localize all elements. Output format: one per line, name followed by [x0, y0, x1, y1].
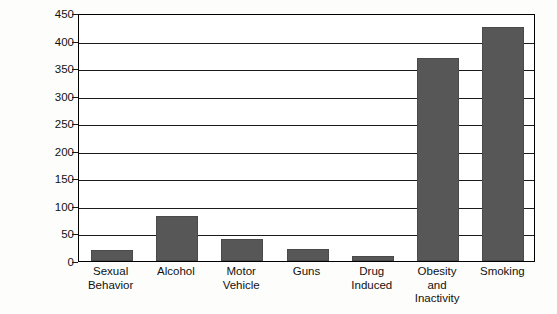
x-tick-label-line: Sexual — [78, 265, 143, 279]
bar — [417, 58, 459, 261]
y-tick-label: 150 — [34, 173, 74, 185]
x-tick-label-line: Obesity — [404, 265, 469, 279]
x-tick-label-line: Motor — [209, 265, 274, 279]
y-tick-mark — [72, 97, 78, 98]
x-tick-label-line: Vehicle — [209, 279, 274, 293]
y-tick-mark — [72, 14, 78, 15]
bar — [287, 249, 329, 261]
y-axis-tick-labels: 050100150200250300350400450 — [34, 0, 74, 314]
y-tick-label: 0 — [34, 256, 74, 268]
x-tick-label-line: Induced — [339, 279, 404, 293]
y-tick-mark — [72, 152, 78, 153]
x-tick-label-line: Behavior — [78, 279, 143, 293]
x-tick-label: MotorVehicle — [209, 265, 274, 292]
x-tick-label: Smoking — [470, 265, 535, 279]
bar — [482, 27, 524, 261]
y-tick-mark — [72, 42, 78, 43]
x-tick-label: Alcohol — [143, 265, 208, 279]
bar — [156, 216, 198, 261]
x-tick-label: SexualBehavior — [78, 265, 143, 292]
plot-area — [78, 14, 535, 262]
bar — [352, 256, 394, 262]
y-tick-label: 250 — [34, 118, 74, 130]
y-tick-label: 450 — [34, 8, 74, 20]
y-tick-mark — [72, 179, 78, 180]
x-tick-label-line: Alcohol — [143, 265, 208, 279]
y-tick-label: 50 — [34, 228, 74, 240]
y-tick-mark — [72, 207, 78, 208]
x-tick-label-line: Inactivity — [404, 292, 469, 306]
x-tick-label: Guns — [274, 265, 339, 279]
y-tick-mark — [72, 124, 78, 125]
x-tick-label-line: Drug — [339, 265, 404, 279]
y-tick-mark — [72, 69, 78, 70]
y-tick-label: 300 — [34, 91, 74, 103]
x-tick-label: ObesityandInactivity — [404, 265, 469, 306]
x-tick-label-line: Smoking — [470, 265, 535, 279]
y-tick-label: 350 — [34, 63, 74, 75]
x-tick-label: DrugInduced — [339, 265, 404, 292]
y-tick-label: 100 — [34, 201, 74, 213]
x-tick-label-line: Guns — [274, 265, 339, 279]
y-tick-label: 400 — [34, 36, 74, 48]
y-tick-label: 200 — [34, 146, 74, 158]
bar — [221, 239, 263, 261]
bar — [91, 250, 133, 261]
y-tick-mark — [72, 262, 78, 263]
y-tick-mark — [72, 234, 78, 235]
x-tick-label-line: and — [404, 279, 469, 293]
bar-chart-figure: No. of Deaths (thousands) 05010015020025… — [0, 0, 557, 314]
bars-group — [79, 15, 534, 261]
x-axis-tick-labels: SexualBehaviorAlcoholMotorVehicleGunsDru… — [78, 265, 535, 313]
